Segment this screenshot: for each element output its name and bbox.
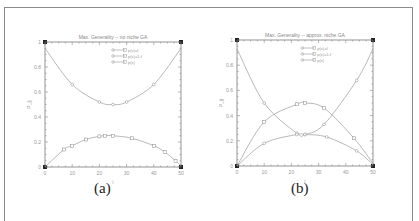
xtick-label: 40 <box>343 169 349 175</box>
legend-entry: p(x)=1-f <box>128 54 143 59</box>
ytick-label: 0.2 <box>226 138 233 144</box>
legend-entry: p(x)=f <box>317 46 328 51</box>
xtick-label: 20 <box>289 169 295 175</box>
caption-a: (a) <box>94 180 111 197</box>
series-line <box>45 136 181 167</box>
data-point <box>163 151 166 154</box>
data-point <box>325 136 328 139</box>
ytick-label: 0.4 <box>34 114 41 120</box>
y-axis-label: P_ij <box>218 99 224 107</box>
figure-plots: 00.20.40.60.8101020304050tP_ijMax. Gener… <box>0 0 419 221</box>
data-point <box>295 103 298 106</box>
x-axis-label: t <box>112 180 114 185</box>
data-point <box>304 133 307 136</box>
y-axis-label: P_ij <box>26 100 32 108</box>
data-point <box>125 101 128 104</box>
series-line <box>45 48 181 104</box>
ytick-label: 0.6 <box>34 89 41 95</box>
chart-panel-b: 00.20.40.60.8101020304050tP_ijMax. Gener… <box>218 32 376 184</box>
xtick-label: 0 <box>236 169 239 175</box>
ytick-label: 0.8 <box>226 62 233 68</box>
data-point <box>71 83 74 86</box>
xtick-label: 0 <box>44 170 47 176</box>
chart-title: Max. Generality -- approx. niche GA <box>265 32 345 38</box>
data-point <box>152 144 155 147</box>
xtick-label: 30 <box>316 169 322 175</box>
xtick-label: 40 <box>151 170 157 176</box>
data-point <box>355 79 358 82</box>
data-point <box>263 102 266 105</box>
xtick-label: 10 <box>69 170 75 176</box>
data-point <box>323 107 326 110</box>
data-point <box>152 83 155 86</box>
data-point <box>131 137 134 140</box>
data-point <box>71 144 74 147</box>
chart-panel-a: 00.20.40.60.8101020304050tP_ijMax. Gener… <box>26 34 184 185</box>
data-point <box>84 138 87 141</box>
ytick-label: 0.2 <box>34 139 41 145</box>
data-point <box>323 123 326 126</box>
caption-b: (b) <box>291 180 309 197</box>
xtick-label: 10 <box>261 169 267 175</box>
data-point <box>63 148 66 151</box>
data-point <box>98 135 101 138</box>
data-point <box>304 102 307 105</box>
data-point <box>352 137 355 140</box>
data-point <box>112 103 115 106</box>
xtick-label: 20 <box>97 170 103 176</box>
data-point <box>263 120 266 123</box>
data-point <box>98 101 101 104</box>
legend-entry: p(x) <box>128 60 136 65</box>
ytick-label: 0 <box>38 164 41 170</box>
data-point <box>355 149 358 152</box>
xtick-label: 30 <box>124 170 130 176</box>
ytick-label: 1 <box>230 37 233 43</box>
data-point <box>263 142 266 145</box>
ytick-label: 0.6 <box>226 87 233 93</box>
legend-entry: p(x)=f <box>128 48 139 53</box>
ytick-label: 0.4 <box>226 113 233 119</box>
xtick-label: 50 <box>178 170 184 176</box>
legend-entry: p(x) <box>317 58 325 63</box>
ytick-label: 0.8 <box>34 64 41 70</box>
xtick-label: 50 <box>370 169 376 175</box>
chart-title: Max. Generality -- no niche GA <box>79 34 148 40</box>
series-line <box>237 49 373 137</box>
ytick-label: 0 <box>230 163 233 169</box>
data-point <box>112 134 115 137</box>
legend-entry: p(x)=1-f <box>317 52 332 57</box>
ytick-label: 1 <box>38 39 41 45</box>
data-point <box>103 134 106 137</box>
data-point <box>295 133 298 136</box>
data-point <box>174 159 177 162</box>
